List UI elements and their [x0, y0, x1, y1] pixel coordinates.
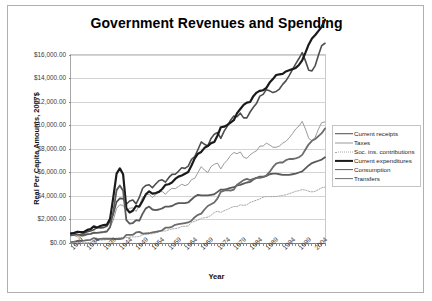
y-axis-tick-label: $12,000.00: [10, 98, 66, 105]
legend-swatch-icon: [335, 156, 353, 165]
y-axis-tick-label: $4,000.00: [10, 192, 66, 199]
legend-label: Current expenditures: [353, 156, 412, 165]
chart-title: Government Revenues and Spending: [8, 15, 425, 31]
y-axis-tick-label: $6,000.00: [10, 168, 66, 175]
legend-label: Current receipts: [353, 129, 398, 138]
y-axis-labels: Real Per Capita Amounts, 2007$ $0.00$2,0…: [8, 54, 66, 244]
series-line-transfers: [71, 128, 325, 242]
chart-legend: Current receiptsTaxesSoc. ins. contribut…: [332, 125, 421, 187]
legend-label: Taxes: [353, 138, 370, 147]
legend-item[interactable]: Current receipts: [335, 129, 418, 138]
chart-container: Government Revenues and Spending Real Pe…: [7, 5, 424, 293]
y-axis-tick-label: $10,000.00: [10, 121, 66, 128]
plot-area: [70, 54, 326, 244]
legend-label: Transfers: [353, 174, 380, 183]
y-axis-tick-label: $14,000.00: [10, 74, 66, 81]
legend-item[interactable]: Consumption: [335, 165, 418, 174]
legend-swatch-icon: [335, 147, 353, 156]
legend-item[interactable]: Soc. ins. contributions: [335, 147, 418, 156]
legend-swatch-icon: [335, 129, 353, 138]
legend-label: Consumption: [353, 165, 390, 174]
y-axis-tick-label: $16,000.00: [10, 51, 66, 58]
legend-swatch-icon: [335, 138, 353, 147]
legend-item[interactable]: Taxes: [335, 138, 418, 147]
legend-label: Soc. ins. contributions: [353, 147, 415, 156]
legend-item[interactable]: Transfers: [335, 174, 418, 183]
y-axis-tick-label: $2,000.00: [10, 215, 66, 222]
series-line-current-expenditures: [71, 20, 325, 234]
y-axis-tick-label: $0.00: [10, 239, 66, 246]
plot-svg: [71, 55, 325, 243]
legend-swatch-icon: [335, 174, 353, 183]
y-axis-tick-label: $8,000.00: [10, 145, 66, 152]
legend-swatch-icon: [335, 165, 353, 174]
x-axis-title: Year: [8, 272, 425, 281]
legend-item[interactable]: Current expenditures: [335, 156, 418, 165]
